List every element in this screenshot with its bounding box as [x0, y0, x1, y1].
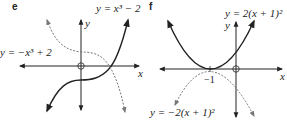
- x-axis-label: x: [279, 70, 285, 82]
- curve-label-dashed: y = −2(x + 1)²: [149, 106, 215, 119]
- curve-label-dashed: y = −x³ + 2: [0, 46, 52, 58]
- y-axis-label: y: [84, 17, 90, 29]
- panel-label-f: f: [149, 1, 153, 12]
- curve-label-solid: y = 2(x + 1)²: [224, 7, 283, 20]
- panel-f: f −1 x y y = 2(x + 1)² y = −2(x + 1)²: [149, 1, 285, 119]
- graph-figure: e x y y = x³ − 2 y = −x³ + 2 f −1 x y y …: [0, 0, 287, 124]
- curve-label-solid: y = x³ − 2: [95, 2, 141, 14]
- panel-label-e: e: [12, 1, 18, 12]
- panel-e: e x y y = x³ − 2 y = −x³ + 2: [0, 1, 143, 112]
- curve-solid: [168, 21, 254, 69]
- y-axis-label: y: [224, 19, 230, 31]
- tick-label-minus-1: −1: [204, 74, 215, 85]
- x-axis-label: x: [137, 67, 143, 79]
